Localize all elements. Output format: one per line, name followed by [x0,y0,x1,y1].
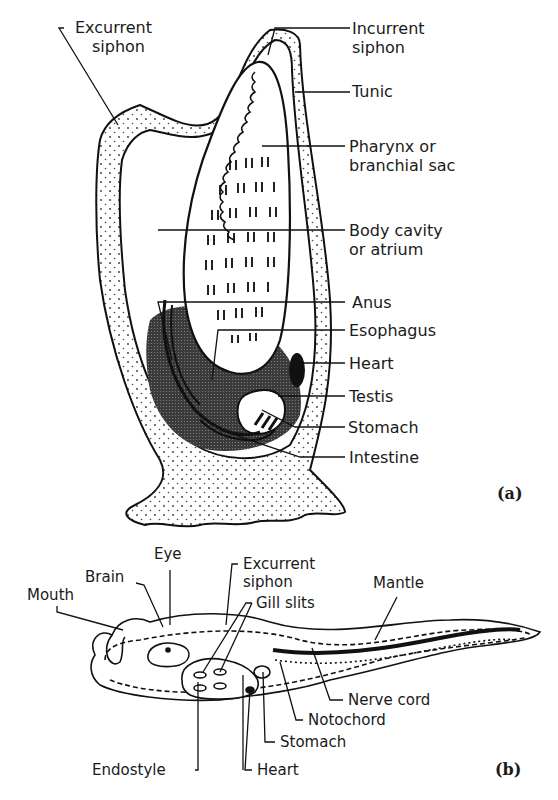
label-esophagus: Esophagus [349,321,436,340]
label-pharynx: Pharynx or branchial sac [349,137,455,175]
label-mantle: Mantle [373,574,424,592]
adult-tunicate-body [96,30,345,527]
panel-label-a: (a) [497,484,523,503]
label-intestine: Intestine [349,448,419,467]
label-gill-slits: Gill slits [256,594,315,612]
tunicate-diagram [0,0,558,800]
label-body-cavity: Body cavity or atrium [349,221,443,259]
label-stomach-a: Stomach [348,418,419,437]
label-testis: Testis [349,387,393,406]
label-brain: Brain [85,568,124,586]
label-heart-a: Heart [349,354,394,373]
label-notochord: Notochord [308,711,386,729]
label-heart-b: Heart [257,761,299,779]
label-tunic: Tunic [352,82,393,101]
label-eye: Eye [154,545,182,563]
label-nerve-cord: Nerve cord [348,691,430,709]
label-incurrent-siphon: Incurrent siphon [352,19,425,57]
label-stomach-b: Stomach [280,733,346,751]
label-excurrent-siphon-b: Excurrent siphon [243,555,315,591]
label-mouth: Mouth [27,586,74,604]
label-anus: Anus [352,293,392,312]
label-endostyle: Endostyle [92,761,166,779]
panel-label-b: (b) [495,760,521,779]
label-excurrent-siphon-a: Excurrent siphon [75,18,152,56]
